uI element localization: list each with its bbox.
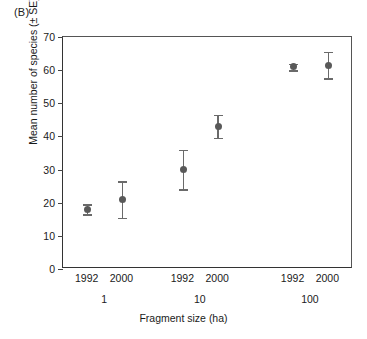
data-point-marker <box>180 166 187 173</box>
y-axis-tick-label: 0 <box>49 263 55 275</box>
error-bar-cap-upper <box>324 52 333 53</box>
x-axis-title: Fragment size (ha) <box>0 312 367 324</box>
plot-area: 010203040506070 <box>62 36 352 268</box>
x-axis-year-label: 1992 <box>75 272 98 284</box>
y-axis-title: Mean number of species (± SE) <box>27 0 39 186</box>
error-bar-cap-lower <box>289 70 298 71</box>
y-axis-tick-label: 50 <box>43 97 55 109</box>
error-bar-cap-lower <box>179 189 188 190</box>
y-axis-tick-label: 70 <box>43 31 55 43</box>
figure-panel-b: (B) Mean number of species (± SE) 010203… <box>0 0 367 339</box>
y-axis-tick-mark <box>58 103 63 104</box>
y-axis-tick-label: 30 <box>43 164 55 176</box>
x-axis-year-label: 1992 <box>281 272 304 284</box>
y-axis-tick-label: 60 <box>43 64 55 76</box>
y-axis-tick-label: 40 <box>43 130 55 142</box>
y-axis-tick-mark <box>58 37 63 38</box>
y-axis-tick-mark <box>58 269 63 270</box>
y-axis-tick-mark <box>58 170 63 171</box>
x-axis-year-label: 2000 <box>316 272 339 284</box>
x-axis-group-label: 1 <box>101 293 107 305</box>
y-axis-tick-mark <box>58 136 63 137</box>
y-axis-tick-mark <box>58 236 63 237</box>
data-point-marker <box>325 62 332 69</box>
x-axis-year-label: 2000 <box>205 272 228 284</box>
error-bar-cap-lower <box>83 214 92 215</box>
y-axis-tick-mark <box>58 203 63 204</box>
data-point-marker <box>119 196 126 203</box>
error-bar-cap-lower <box>118 218 127 219</box>
error-bar-cap-lower <box>324 78 333 79</box>
error-bar-cap-upper <box>179 150 188 151</box>
x-axis-group-label: 10 <box>194 293 206 305</box>
x-axis-year-label: 2000 <box>110 272 133 284</box>
data-point-marker <box>84 206 91 213</box>
error-bar-cap-upper <box>118 181 127 182</box>
x-axis-year-label: 1992 <box>171 272 194 284</box>
error-bar-cap-lower <box>214 138 223 139</box>
y-axis-tick-label: 10 <box>43 230 55 242</box>
y-axis-tick-mark <box>58 70 63 71</box>
error-bar-cap-upper <box>214 115 223 116</box>
data-point-marker <box>215 123 222 130</box>
x-axis-group-label: 100 <box>301 293 319 305</box>
y-axis-tick-label: 20 <box>43 197 55 209</box>
